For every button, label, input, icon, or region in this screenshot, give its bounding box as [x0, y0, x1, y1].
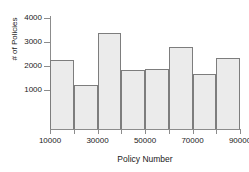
- histogram-bar: [216, 58, 240, 129]
- y-tick-label: 2000: [0, 61, 42, 70]
- histogram-bar: [169, 47, 193, 129]
- histogram-figure: # of Policies 1000200030004000 100003000…: [0, 0, 249, 172]
- x-tick-mark: [216, 129, 217, 134]
- x-tick-mark: [145, 129, 146, 134]
- x-tick-mark: [240, 129, 241, 134]
- x-axis-title: Policy Number: [45, 154, 245, 164]
- y-tick-label-wrap: 4000: [0, 13, 42, 23]
- x-tick-mark: [98, 129, 99, 134]
- histogram-bar: [193, 74, 217, 129]
- histogram-bar: [74, 85, 98, 129]
- y-tick-label: 3000: [0, 37, 42, 46]
- x-tick-label: 50000: [122, 136, 168, 145]
- x-tick-mark: [121, 129, 122, 134]
- y-tick-label-wrap: 3000: [0, 37, 42, 47]
- y-tick-label: 1000: [0, 85, 42, 94]
- x-tick-label: 90000: [217, 136, 249, 145]
- histogram-bar: [50, 60, 74, 129]
- histogram-bar: [145, 69, 169, 129]
- y-tick-label: 4000: [0, 13, 42, 22]
- x-tick-label: 30000: [75, 136, 121, 145]
- x-tick-mark: [169, 129, 170, 134]
- y-tick-label-wrap: 2000: [0, 61, 42, 71]
- x-tick-mark: [74, 129, 75, 134]
- x-tick-mark: [193, 129, 194, 134]
- x-tick-label: 70000: [170, 136, 216, 145]
- histogram-bar: [121, 70, 145, 129]
- histogram-bar: [98, 33, 122, 129]
- y-tick-label-wrap: 1000: [0, 85, 42, 95]
- x-tick-mark: [50, 129, 51, 134]
- x-tick-label: 10000: [27, 136, 73, 145]
